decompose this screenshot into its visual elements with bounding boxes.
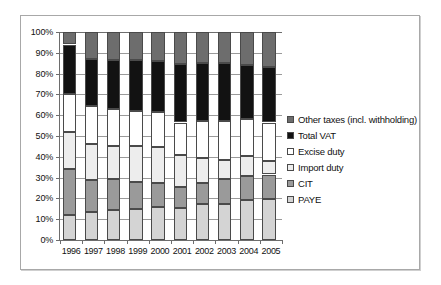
bar-segment[interactable] xyxy=(151,32,164,61)
x-axis-tick-label: 2003 xyxy=(217,246,236,256)
legend-item[interactable]: CIT xyxy=(287,175,417,191)
bar-segment[interactable] xyxy=(196,183,209,204)
bar-segment[interactable] xyxy=(218,63,231,121)
x-axis-tick xyxy=(104,240,105,244)
bar-segment[interactable] xyxy=(240,176,253,201)
bar-segment[interactable] xyxy=(107,32,120,60)
legend-swatch-icon xyxy=(287,180,294,187)
x-axis-tick-label: 1998 xyxy=(106,246,125,256)
x-axis-tick xyxy=(282,240,283,244)
bar-segment[interactable] xyxy=(196,63,209,121)
bar-segment[interactable] xyxy=(129,146,142,181)
bar-segment[interactable] xyxy=(63,32,76,44)
stacked-bar[interactable] xyxy=(240,32,253,240)
bar-segment[interactable] xyxy=(85,32,98,59)
bar-segment[interactable] xyxy=(107,179,120,210)
legend-swatch-icon xyxy=(287,148,294,155)
y-axis-tick-label: 60% xyxy=(36,110,53,120)
bar-segment[interactable] xyxy=(129,182,142,209)
bar-segment[interactable] xyxy=(240,32,253,65)
legend-item-label: Import duty xyxy=(298,162,343,173)
bar-segment[interactable] xyxy=(218,121,231,159)
bar-slot xyxy=(127,32,149,240)
bar-segment[interactable] xyxy=(63,94,76,131)
stacked-bar[interactable] xyxy=(85,32,98,240)
bar-segment[interactable] xyxy=(107,210,120,240)
bar-segment[interactable] xyxy=(240,156,253,176)
bar-segment[interactable] xyxy=(107,109,120,146)
stacked-bar[interactable] xyxy=(63,32,76,240)
legend-item[interactable]: Other taxes (incl. withholding) xyxy=(287,111,417,127)
x-axis-tick xyxy=(127,240,128,244)
bar-segment[interactable] xyxy=(240,200,253,240)
bar-segment[interactable] xyxy=(151,147,164,182)
bar-segment[interactable] xyxy=(151,183,164,207)
legend-swatch-icon xyxy=(287,116,294,123)
stacked-bar[interactable] xyxy=(151,32,164,240)
bar-segment[interactable] xyxy=(262,32,275,67)
legend-item[interactable]: Excise duty xyxy=(287,143,417,159)
x-axis-tick xyxy=(238,240,239,244)
stacked-bar[interactable] xyxy=(262,32,275,240)
y-axis-tick-label: 20% xyxy=(36,193,53,203)
bar-segment[interactable] xyxy=(218,32,231,63)
bar-segment[interactable] xyxy=(174,123,187,155)
bar-segment[interactable] xyxy=(63,45,76,95)
bar-segment[interactable] xyxy=(218,160,231,179)
bar-segment[interactable] xyxy=(151,207,164,240)
bar-slot xyxy=(171,32,193,240)
x-axis-tick xyxy=(82,240,83,244)
bar-segment[interactable] xyxy=(262,161,275,175)
bar-segment[interactable] xyxy=(240,65,253,119)
x-axis-tick xyxy=(193,240,194,244)
bar-segment[interactable] xyxy=(63,132,76,169)
bar-segment[interactable] xyxy=(262,199,275,240)
bar-segment[interactable] xyxy=(85,180,98,212)
bar-segment[interactable] xyxy=(262,67,275,122)
legend-item[interactable]: Total VAT xyxy=(287,127,417,143)
bar-segment[interactable] xyxy=(174,208,187,240)
bar-slot xyxy=(149,32,171,240)
legend-swatch-icon xyxy=(287,132,294,139)
x-axis-tick xyxy=(149,240,150,244)
bar-segment[interactable] xyxy=(107,146,120,178)
bar-segment[interactable] xyxy=(151,112,164,147)
stacked-bar[interactable] xyxy=(218,32,231,240)
bar-segment[interactable] xyxy=(129,60,142,111)
x-axis-tick xyxy=(60,240,61,244)
stacked-bar[interactable] xyxy=(107,32,120,240)
bar-segment[interactable] xyxy=(218,179,231,204)
bar-segment[interactable] xyxy=(63,215,76,240)
bar-slot xyxy=(60,32,82,240)
bar-segment[interactable] xyxy=(174,155,187,187)
bar-segment[interactable] xyxy=(129,209,142,240)
legend-item[interactable]: Import duty xyxy=(287,159,417,175)
legend-item[interactable]: PAYE xyxy=(287,191,417,207)
bar-segment[interactable] xyxy=(107,60,120,109)
bar-segment[interactable] xyxy=(196,32,209,63)
bar-segment[interactable] xyxy=(196,204,209,240)
bar-segment[interactable] xyxy=(129,32,142,60)
bar-segment[interactable] xyxy=(85,59,98,106)
bar-segment[interactable] xyxy=(174,32,187,64)
bar-segment[interactable] xyxy=(151,61,164,112)
bar-segment[interactable] xyxy=(262,123,275,161)
bar-segment[interactable] xyxy=(174,64,187,122)
y-axis-tick-label: 80% xyxy=(36,69,53,79)
bar-segment[interactable] xyxy=(85,106,98,144)
bar-segment[interactable] xyxy=(240,119,253,155)
bar-segment[interactable] xyxy=(196,158,209,183)
bar-segment[interactable] xyxy=(85,144,98,179)
stacked-bar[interactable] xyxy=(196,32,209,240)
bar-segment[interactable] xyxy=(196,121,209,157)
bar-segment[interactable] xyxy=(218,204,231,240)
bar-segment[interactable] xyxy=(85,212,98,240)
stacked-bar[interactable] xyxy=(174,32,187,240)
bar-segment[interactable] xyxy=(262,175,275,200)
bar-segment[interactable] xyxy=(174,187,187,208)
legend-item-label: PAYE xyxy=(298,194,321,205)
bar-segment[interactable] xyxy=(129,111,142,146)
bar-segment[interactable] xyxy=(63,169,76,215)
stacked-bar[interactable] xyxy=(129,32,142,240)
chart-legend: Other taxes (incl. withholding)Total VAT… xyxy=(287,111,417,207)
